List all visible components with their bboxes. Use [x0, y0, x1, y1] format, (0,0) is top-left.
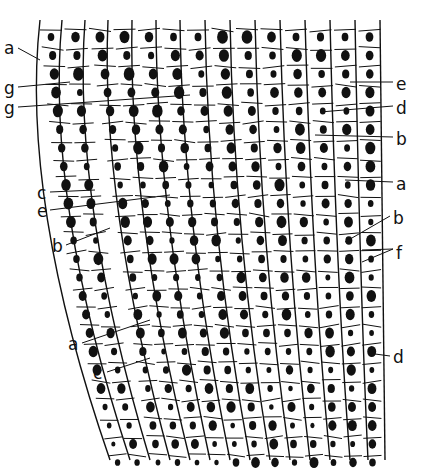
- label-c: c: [37, 185, 46, 202]
- label-f: f: [396, 245, 402, 262]
- root-tip-cell-diagram: [0, 0, 422, 472]
- label-b: b: [393, 210, 404, 227]
- label-d: d: [396, 100, 407, 117]
- label-c: c: [93, 365, 102, 382]
- label-d: d: [393, 349, 404, 366]
- label-b: b: [52, 238, 63, 255]
- label-a: a: [4, 40, 14, 57]
- label-a: a: [68, 336, 78, 353]
- label-b: b: [396, 131, 407, 148]
- label-a: a: [396, 176, 406, 193]
- label-e: e: [396, 76, 406, 93]
- label-g: g: [4, 100, 15, 117]
- label-g: g: [4, 80, 15, 97]
- label-e: e: [37, 203, 47, 220]
